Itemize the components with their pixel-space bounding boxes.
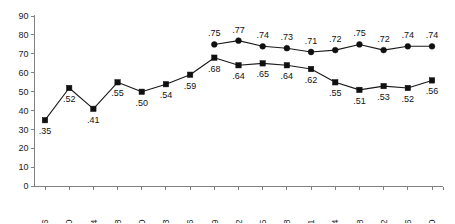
x-tick-label: 1988 — [282, 220, 292, 224]
x-tick-label: 2002 — [379, 220, 389, 224]
data-point-label: .35 — [39, 126, 52, 136]
x-tick-label: 1991 — [306, 220, 316, 224]
y-tick-label: 20 — [18, 143, 28, 153]
x-tick-label: 1964 — [89, 220, 99, 224]
data-point-marker — [357, 87, 362, 92]
data-point-marker — [284, 63, 289, 68]
data-point-label: .50 — [135, 98, 148, 108]
data-point-marker — [91, 106, 96, 111]
data-point-marker — [236, 38, 242, 44]
data-point-marker — [429, 78, 434, 83]
data-point-marker — [187, 72, 192, 77]
data-point-marker — [333, 80, 338, 85]
data-point-label: .72 — [329, 34, 342, 44]
data-point-marker — [332, 47, 338, 53]
x-tick-label: 1985 — [258, 220, 268, 224]
x-tick-label: 2006 — [403, 220, 413, 224]
x-tick-label: 1960 — [64, 220, 74, 224]
x-axis: 1956196019641968197019731976197919821985… — [35, 187, 444, 224]
line-chart: 0102030405060708090 19561960196419681970… — [0, 0, 455, 223]
y-tick-label: 80 — [18, 30, 28, 40]
data-point-label: .56 — [426, 86, 439, 96]
data-point-marker — [211, 42, 217, 48]
data-point-label: .59 — [184, 81, 197, 91]
x-tick-label: 1968 — [113, 220, 123, 224]
data-point-label: .74 — [256, 30, 269, 40]
data-point-marker — [381, 83, 386, 88]
data-point-label: .51 — [353, 96, 366, 106]
data-point-marker — [139, 89, 144, 94]
data-point-marker — [308, 49, 314, 55]
y-tick-label: 70 — [18, 49, 28, 59]
data-point-marker — [284, 45, 290, 51]
data-point-label: .54 — [160, 90, 173, 100]
series-line-upper-series — [214, 41, 432, 52]
x-tick-label: 2010 — [427, 220, 437, 224]
data-point-marker — [42, 117, 47, 122]
y-tick-label: 50 — [18, 87, 28, 97]
data-point-label: .64 — [232, 71, 245, 81]
data-point-marker — [163, 82, 168, 87]
chart-canvas: 0102030405060708090 19561960196419681970… — [0, 0, 455, 223]
x-tick-label: 1994 — [330, 220, 340, 224]
data-point-label: .77 — [232, 25, 245, 35]
data-point-label: .75 — [208, 28, 221, 38]
y-tick-label: 0 — [23, 181, 28, 191]
y-tick-label: 90 — [18, 11, 28, 21]
data-point-label: .52 — [402, 94, 415, 104]
y-tick-label: 30 — [18, 125, 28, 135]
data-point-label: .52 — [63, 94, 76, 104]
y-tick-label: 10 — [18, 162, 28, 172]
data-point-marker — [381, 47, 387, 53]
data-point-label: .72 — [377, 34, 390, 44]
data-point-marker — [405, 85, 410, 90]
data-point-label: .73 — [281, 32, 294, 42]
data-point-marker — [260, 61, 265, 66]
x-tick-label: 1982 — [234, 220, 244, 224]
data-point-marker — [429, 43, 435, 49]
data-point-marker — [357, 42, 363, 48]
x-tick-label: 1979 — [210, 220, 220, 224]
data-point-marker — [212, 55, 217, 60]
data-point-marker — [236, 63, 241, 68]
data-point-label: .68 — [208, 64, 221, 74]
data-point-label: .62 — [305, 75, 318, 85]
x-tick-label: 1970 — [137, 220, 147, 224]
data-point-marker — [115, 80, 120, 85]
x-tick-label: 1998 — [355, 220, 365, 224]
data-point-label: .75 — [353, 28, 366, 38]
data-point-label: .74 — [426, 30, 439, 40]
y-axis: 0102030405060708090 — [18, 11, 34, 192]
data-point-marker — [405, 43, 411, 49]
data-point-label: .41 — [87, 115, 100, 125]
data-point-marker — [260, 43, 266, 49]
x-tick-label: 1956 — [40, 220, 50, 224]
data-point-label: .64 — [281, 71, 294, 81]
data-point-marker — [308, 66, 313, 71]
data-point-label: .74 — [402, 30, 415, 40]
data-point-marker — [66, 85, 71, 90]
x-tick-label: 1976 — [185, 220, 195, 224]
data-point-label: .71 — [305, 36, 318, 46]
y-tick-label: 40 — [18, 106, 28, 116]
data-point-label: .53 — [377, 92, 390, 102]
data-point-label: .65 — [256, 69, 269, 79]
data-point-label: .55 — [111, 88, 124, 98]
x-tick-label: 1973 — [161, 220, 171, 224]
y-tick-label: 60 — [18, 68, 28, 78]
data-point-label: .55 — [329, 88, 342, 98]
